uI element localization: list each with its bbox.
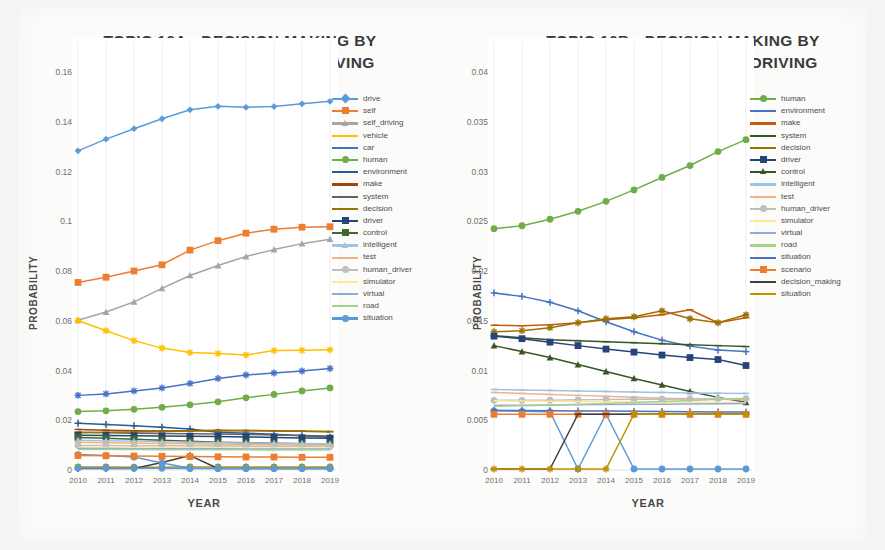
legend-swatch-icon	[332, 118, 358, 128]
legend-label: intelligent	[781, 178, 815, 190]
legend-item-self-driving[interactable]: self_driving	[332, 117, 412, 129]
legend-label: control	[363, 227, 387, 239]
legend-swatch-icon	[750, 216, 776, 226]
legend-swatch-icon	[332, 179, 358, 189]
legend-item-human[interactable]: human	[750, 93, 841, 105]
legend-swatch-icon	[750, 289, 776, 299]
legend-label: human	[363, 154, 387, 166]
page-background: TOPIC 16A - DECISION MAKING BY HUMAN_DRI…	[0, 0, 885, 550]
legend-item-system[interactable]: system	[332, 191, 412, 203]
legend-swatch-icon	[750, 155, 776, 165]
legend-item-situation[interactable]: situation	[750, 288, 841, 300]
legend-item-system[interactable]: system	[750, 130, 841, 142]
legend-label: environment	[781, 105, 825, 117]
legend-swatch-icon	[332, 167, 358, 177]
legend-item-environment[interactable]: environment	[332, 166, 412, 178]
legend-swatch-icon	[750, 94, 776, 104]
legend-label: road	[781, 239, 797, 251]
chart-panel-topic-16a: TOPIC 16A - DECISION MAKING BY HUMAN_DRI…	[0, 0, 442, 550]
legend-swatch-icon	[332, 301, 358, 311]
legend-swatch-icon	[750, 179, 776, 189]
legend-swatch-icon	[332, 228, 358, 238]
legend-item-test[interactable]: test	[332, 251, 412, 263]
legend-item-simulator[interactable]: simulator	[332, 276, 412, 288]
legend-label: system	[781, 130, 806, 142]
legend-swatch-icon	[332, 253, 358, 263]
legend-label: situation	[363, 312, 393, 324]
legend-swatch-icon	[332, 155, 358, 165]
legend-item-make[interactable]: make	[750, 117, 841, 129]
legend-label: virtual	[363, 288, 384, 300]
legend-item-control[interactable]: control	[750, 166, 841, 178]
legend-label: driver	[781, 154, 801, 166]
legend-item-make[interactable]: make	[332, 178, 412, 190]
legend-item-vehicle[interactable]: vehicle	[332, 130, 412, 142]
legend-item-simulator[interactable]: simulator	[750, 215, 841, 227]
legend-swatch-icon	[332, 277, 358, 287]
legend-swatch-icon	[332, 143, 358, 153]
legend-swatch-icon	[332, 94, 358, 104]
legend-label: test	[363, 251, 376, 263]
legend-label: drive	[363, 93, 380, 105]
legend-item-situation[interactable]: situation	[332, 312, 412, 324]
legend-swatch-icon	[750, 265, 776, 275]
legend-item-virtual[interactable]: virtual	[750, 227, 841, 239]
legend-swatch-icon	[750, 204, 776, 214]
legend-label: make	[363, 178, 383, 190]
legend-swatch-icon	[750, 240, 776, 250]
legend-label: car	[363, 142, 374, 154]
legend-item-intelligent[interactable]: intelligent	[750, 178, 841, 190]
legend-label: human_driver	[781, 203, 830, 215]
legend-label: scenario	[781, 264, 811, 276]
legend-swatch-icon	[750, 143, 776, 153]
legend-label: decision	[781, 142, 810, 154]
legend-label: decision_making	[781, 276, 841, 288]
legend-item-driver[interactable]: driver	[332, 215, 412, 227]
legend-item-test[interactable]: test	[750, 191, 841, 203]
legend-item-decision[interactable]: decision	[750, 142, 841, 154]
legend-swatch-icon	[332, 265, 358, 275]
legend-swatch-icon	[332, 106, 358, 116]
legend-item-human-driver[interactable]: human_driver	[750, 203, 841, 215]
legend-swatch-icon	[332, 216, 358, 226]
legend-item-drive[interactable]: drive	[332, 93, 412, 105]
legend-swatch-icon	[332, 289, 358, 299]
legend-item-environment[interactable]: environment	[750, 105, 841, 117]
legend-item-car[interactable]: car	[332, 142, 412, 154]
legend-label: road	[363, 300, 379, 312]
legend-swatch-icon	[750, 167, 776, 177]
legend-label: self	[363, 105, 375, 117]
legend-label: intelligent	[363, 239, 397, 251]
chart-panel-topic-16b: TOPIC 16B - DECISION MAKING BY HUMAN_DRI…	[442, 0, 884, 550]
legend-label: decision	[363, 203, 392, 215]
legend-label: test	[781, 191, 794, 203]
legend-item-road[interactable]: road	[750, 239, 841, 251]
legend-swatch-icon	[332, 204, 358, 214]
legend-item-control[interactable]: control	[332, 227, 412, 239]
legend-item-human-driver[interactable]: human_driver	[332, 264, 412, 276]
legend-item-driver[interactable]: driver	[750, 154, 841, 166]
legend-item-road[interactable]: road	[332, 300, 412, 312]
legend-label: environment	[363, 166, 407, 178]
legend-item-decision[interactable]: decision	[332, 203, 412, 215]
legend-item-self[interactable]: self	[332, 105, 412, 117]
legend-item-situation[interactable]: situation	[750, 251, 841, 263]
legend-swatch-icon	[332, 192, 358, 202]
legend-swatch-icon	[750, 192, 776, 202]
legend-item-intelligent[interactable]: intelligent	[332, 239, 412, 251]
legend-swatch-icon	[750, 131, 776, 141]
legend-item-human[interactable]: human	[332, 154, 412, 166]
legend-label: control	[781, 166, 805, 178]
legend-16a[interactable]: driveselfself_drivingvehiclecarhumanenvi…	[332, 93, 412, 325]
legend-swatch-icon	[750, 228, 776, 238]
legend-label: situation	[781, 288, 811, 300]
legend-label: simulator	[781, 215, 813, 227]
legend-swatch-icon	[332, 240, 358, 250]
legend-item-scenario[interactable]: scenario	[750, 264, 841, 276]
legend-item-decision-making[interactable]: decision_making	[750, 276, 841, 288]
legend-item-virtual[interactable]: virtual	[332, 288, 412, 300]
legend-label: situation	[781, 251, 811, 263]
legend-label: vehicle	[363, 130, 388, 142]
legend-swatch-icon	[332, 313, 358, 323]
legend-16b[interactable]: humanenvironmentmakesystemdecisiondriver…	[750, 93, 841, 300]
